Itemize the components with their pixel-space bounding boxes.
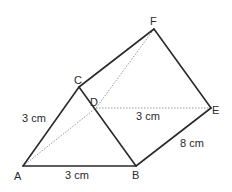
vertex-label-c: C bbox=[74, 74, 82, 86]
prism-diagram: A B C D E F 3 cm 3 cm 3 cm 8 cm bbox=[0, 0, 232, 192]
measure-be: 8 cm bbox=[180, 137, 204, 149]
vertex-label-d: D bbox=[90, 96, 98, 108]
edge-ac bbox=[23, 87, 79, 166]
edge-fe bbox=[154, 29, 211, 108]
prism-svg: A B C D E F 3 cm 3 cm 3 cm 8 cm bbox=[0, 0, 232, 192]
vertex-label-e: E bbox=[212, 104, 219, 116]
measure-ac: 3 cm bbox=[22, 112, 46, 124]
vertex-label-b: B bbox=[132, 169, 139, 181]
measure-de: 3 cm bbox=[136, 110, 160, 122]
vertex-label-f: F bbox=[150, 15, 157, 27]
edge-cb bbox=[79, 87, 136, 166]
measure-ab: 3 cm bbox=[65, 169, 89, 181]
edge-cf bbox=[79, 29, 154, 87]
vertex-label-a: A bbox=[14, 170, 22, 182]
edge-df bbox=[96, 29, 154, 108]
